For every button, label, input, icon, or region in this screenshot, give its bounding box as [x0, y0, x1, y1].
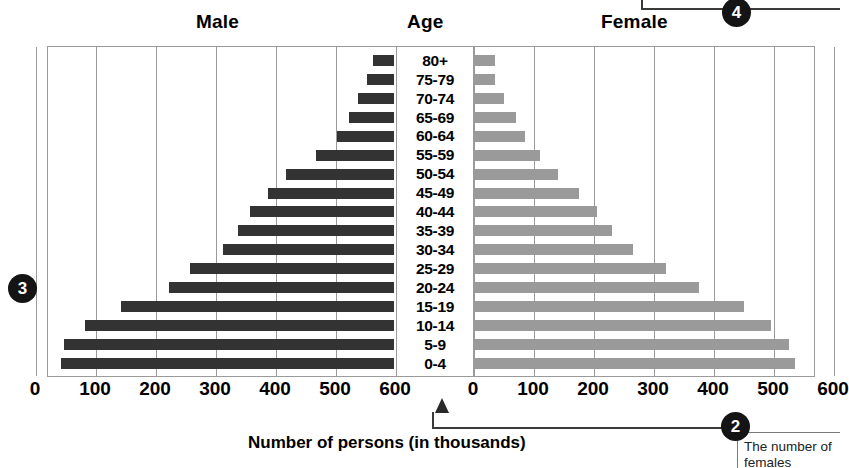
callout-4-leader-vertical — [641, 0, 643, 9]
bar-male-80+ — [373, 55, 394, 66]
tick-male-200: 200 — [139, 378, 171, 400]
header-male: Male — [196, 11, 239, 33]
bar-female-0-4 — [474, 358, 795, 369]
age-group-label: 75-79 — [396, 72, 474, 88]
callout-2-leader-horizontal — [432, 427, 732, 429]
age-group-label: 10-14 — [396, 318, 474, 334]
bar-female-75-79 — [474, 74, 495, 85]
pyramid-row: 0-4 — [48, 354, 814, 373]
age-group-label: 60-64 — [396, 128, 474, 144]
bar-female-55-59 — [474, 150, 540, 161]
age-group-label: 55-59 — [396, 147, 474, 163]
tick-female-300: 300 — [637, 378, 669, 400]
bar-male-40-44 — [250, 206, 394, 217]
pyramid-row: 5-9 — [48, 335, 814, 354]
tick-male-100: 100 — [79, 378, 111, 400]
bar-female-5-9 — [474, 339, 789, 350]
bar-male-50-54 — [286, 169, 394, 180]
bar-female-15-19 — [474, 301, 744, 312]
gridline-female-600 — [834, 47, 835, 376]
pyramid-row: 45-49 — [48, 184, 814, 203]
tick-male-600: 600 — [379, 378, 411, 400]
age-group-label: 65-69 — [396, 110, 474, 126]
bar-male-45-49 — [268, 188, 394, 199]
bar-female-25-29 — [474, 263, 666, 274]
age-group-label: 40-44 — [396, 204, 474, 220]
pyramid-row: 70-74 — [48, 89, 814, 108]
gridline-male-600 — [36, 47, 37, 376]
bar-male-30-34 — [223, 244, 394, 255]
age-group-label: 20-24 — [396, 280, 474, 296]
pyramid-row: 50-54 — [48, 165, 814, 184]
age-group-label: 0-4 — [396, 356, 474, 372]
callout-marker-4[interactable]: 4 — [722, 0, 751, 27]
bar-male-25-29 — [190, 263, 394, 274]
tick-female-400: 400 — [697, 378, 729, 400]
age-group-label: 45-49 — [396, 185, 474, 201]
tick-male-500: 500 — [319, 378, 351, 400]
tick-female-100: 100 — [517, 378, 549, 400]
population-pyramid-chart: 80+75-7970-7465-6960-6455-5950-5445-4940… — [47, 46, 815, 377]
tick-female-500: 500 — [757, 378, 789, 400]
pyramid-row: 80+ — [48, 51, 814, 70]
pyramid-row: 65-69 — [48, 108, 814, 127]
bar-female-45-49 — [474, 188, 579, 199]
bar-male-35-39 — [238, 225, 394, 236]
callout-marker-3[interactable]: 3 — [8, 274, 37, 303]
axis-pointer-arrow-icon — [435, 398, 449, 413]
bar-female-40-44 — [474, 206, 597, 217]
bar-female-20-24 — [474, 282, 699, 293]
bar-female-50-54 — [474, 169, 558, 180]
pyramid-row: 15-19 — [48, 297, 814, 316]
bar-male-55-59 — [316, 150, 394, 161]
bar-female-80+ — [474, 55, 495, 66]
bar-male-10-14 — [85, 320, 394, 331]
age-group-label: 5-9 — [396, 337, 474, 353]
tick-male-400: 400 — [259, 378, 291, 400]
bar-male-75-79 — [367, 74, 394, 85]
pyramid-row: 25-29 — [48, 259, 814, 278]
bar-female-10-14 — [474, 320, 771, 331]
pyramid-row: 60-64 — [48, 127, 814, 146]
age-group-label: 15-19 — [396, 299, 474, 315]
pyramid-row: 55-59 — [48, 146, 814, 165]
bar-female-30-34 — [474, 244, 633, 255]
callout-note-box: The number of females — [737, 432, 840, 468]
age-group-label: 25-29 — [396, 261, 474, 277]
tick-female-600: 600 — [817, 378, 849, 400]
callout-2-leader-vertical — [432, 412, 434, 428]
bar-male-60-64 — [337, 131, 394, 142]
bar-rows: 80+75-7970-7465-6960-6455-5950-5445-4940… — [48, 47, 814, 376]
age-group-label: 80+ — [396, 53, 474, 69]
header-female: Female — [601, 11, 668, 33]
pyramid-row: 35-39 — [48, 221, 814, 240]
tick-female-0: 0 — [468, 378, 479, 400]
callout-marker-2[interactable]: 2 — [721, 412, 750, 441]
bar-male-5-9 — [64, 339, 394, 350]
tick-male-0: 0 — [30, 378, 41, 400]
age-group-label: 50-54 — [396, 166, 474, 182]
age-group-label: 35-39 — [396, 223, 474, 239]
x-axis-title: Number of persons (in thousands) — [248, 433, 526, 453]
bar-male-70-74 — [358, 93, 394, 104]
bar-male-20-24 — [169, 282, 394, 293]
pyramid-row: 30-34 — [48, 240, 814, 259]
bar-male-15-19 — [121, 301, 394, 312]
bar-female-70-74 — [474, 93, 504, 104]
header-age: Age — [407, 11, 444, 33]
pyramid-row: 10-14 — [48, 316, 814, 335]
bar-female-65-69 — [474, 112, 516, 123]
pyramid-row: 75-79 — [48, 70, 814, 89]
age-group-label: 70-74 — [396, 91, 474, 107]
pyramid-row: 20-24 — [48, 278, 814, 297]
bar-male-0-4 — [61, 358, 394, 369]
bar-female-35-39 — [474, 225, 612, 236]
bar-female-60-64 — [474, 131, 525, 142]
tick-female-200: 200 — [577, 378, 609, 400]
pyramid-row: 40-44 — [48, 203, 814, 222]
age-group-label: 30-34 — [396, 242, 474, 258]
bar-male-65-69 — [349, 112, 394, 123]
tick-male-300: 300 — [199, 378, 231, 400]
